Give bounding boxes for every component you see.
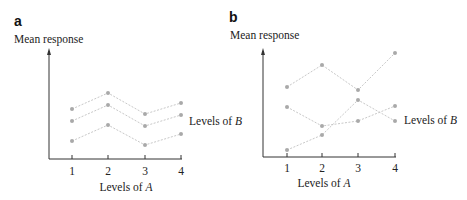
tick-label: 1 — [284, 162, 290, 174]
y-axis-arrow-icon — [261, 48, 265, 55]
x-axis-label-a: Levels of A — [99, 181, 153, 193]
x-ticks-a — [72, 155, 181, 159]
panel-label-a: a — [14, 13, 22, 29]
figure: a Mean response 1 2 3 4 Levels of A Leve… — [0, 0, 467, 200]
y-axis-label-a: Mean response — [14, 33, 83, 46]
panel-a: a Mean response 1 2 3 4 Levels of A Leve… — [14, 13, 242, 193]
y-axis-arrow-icon — [47, 48, 51, 55]
panel-b: b Mean response 1 2 3 4 Levels of A Leve… — [229, 9, 457, 189]
legend-label-a: Levels of B — [189, 115, 242, 127]
tick-label: 2 — [319, 162, 325, 174]
tick-label: 1 — [69, 165, 75, 177]
tick-label: 4 — [178, 165, 184, 177]
tick-label: 2 — [105, 165, 111, 177]
legend-label-b: Levels of B — [404, 114, 457, 126]
x-ticks-b — [287, 153, 395, 157]
series-lines-a — [72, 93, 181, 145]
tick-label: 4 — [392, 162, 398, 174]
y-axis-label-b: Mean response — [230, 29, 299, 42]
panel-label-b: b — [229, 9, 238, 25]
x-axis-label-b: Levels of A — [297, 177, 351, 189]
series-lines-b — [287, 53, 395, 150]
tick-label: 3 — [142, 165, 148, 177]
tick-label: 3 — [355, 162, 361, 174]
series-markers-b — [285, 51, 397, 152]
